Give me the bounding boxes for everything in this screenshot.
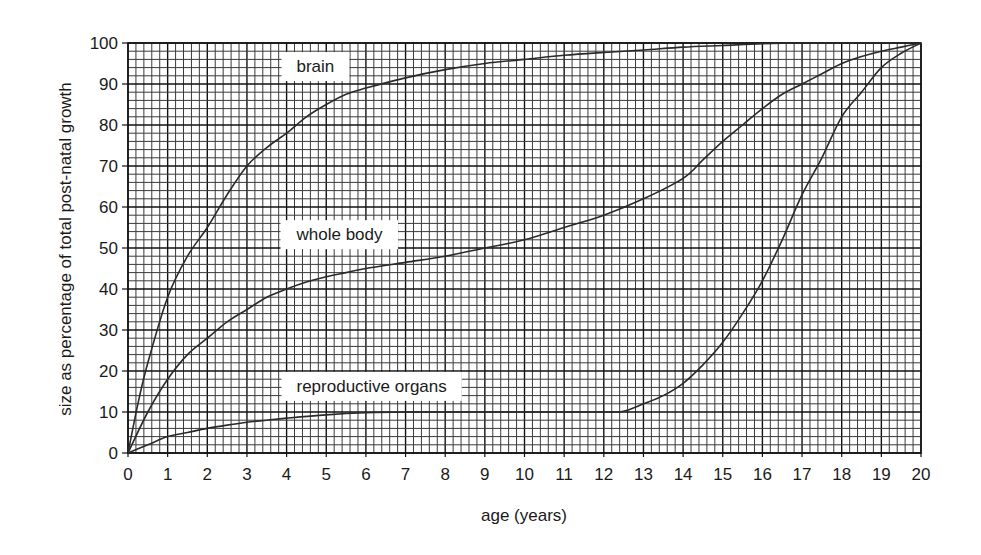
graph-paper-grid: [128, 43, 921, 453]
y-tick-label: 70: [99, 157, 118, 176]
x-tick-label: 12: [594, 465, 613, 484]
y-axis-title: size as percentage of total post-natal g…: [56, 82, 75, 416]
series-label-text: whole body: [296, 225, 384, 244]
x-tick-label: 10: [515, 465, 534, 484]
x-tick-label: 5: [322, 465, 331, 484]
y-tick-label: 30: [99, 321, 118, 340]
x-tick-label: 19: [872, 465, 891, 484]
x-tick-label: 11: [555, 465, 573, 484]
x-axis-ticks: 01234567891011121314151617181920: [123, 453, 930, 484]
y-tick-label: 100: [90, 34, 118, 53]
x-tick-label: 16: [753, 465, 772, 484]
x-tick-label: 9: [480, 465, 489, 484]
y-tick-label: 90: [99, 75, 118, 94]
x-tick-label: 4: [282, 465, 291, 484]
y-axis-ticks: 0102030405060708090100: [90, 34, 128, 463]
y-tick-label: 0: [109, 444, 118, 463]
x-tick-label: 18: [832, 465, 851, 484]
x-tick-label: 0: [123, 465, 132, 484]
series-label-text: reproductive organs: [297, 377, 447, 396]
label-brain: brain: [282, 52, 350, 81]
x-tick-label: 1: [163, 465, 172, 484]
x-tick-label: 20: [912, 465, 931, 484]
growth-chart: brainwhole bodyreproductive organs 01234…: [0, 0, 981, 555]
x-tick-label: 8: [440, 465, 449, 484]
y-tick-label: 40: [99, 280, 118, 299]
x-tick-label: 14: [674, 465, 693, 484]
y-tick-label: 80: [99, 116, 118, 135]
series-label-text: brain: [297, 57, 335, 76]
label-whole-body: whole body: [281, 220, 399, 249]
y-tick-label: 10: [99, 403, 118, 422]
x-tick-label: 17: [793, 465, 812, 484]
label-reproductive-organs: reproductive organs: [282, 372, 462, 401]
x-tick-label: 3: [242, 465, 251, 484]
y-tick-label: 60: [99, 198, 118, 217]
x-tick-label: 2: [203, 465, 212, 484]
x-tick-label: 13: [634, 465, 653, 484]
x-tick-label: 7: [401, 465, 410, 484]
x-axis-title: age (years): [481, 506, 567, 525]
y-tick-label: 50: [99, 239, 118, 258]
y-tick-label: 20: [99, 362, 118, 381]
x-tick-label: 6: [361, 465, 370, 484]
x-tick-label: 15: [713, 465, 732, 484]
